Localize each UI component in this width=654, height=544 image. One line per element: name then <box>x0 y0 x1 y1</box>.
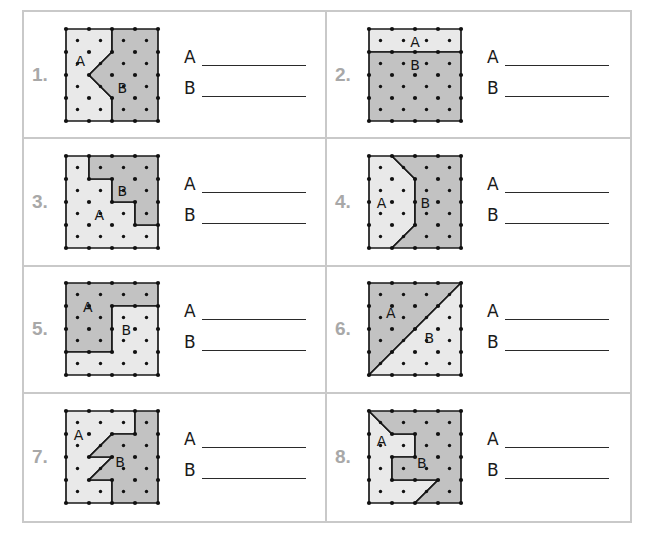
region-label-b: B <box>424 330 434 346</box>
figure-container: AB <box>363 150 467 254</box>
figure-container: AB <box>363 23 467 127</box>
answer-label-a: A <box>487 303 499 320</box>
figure-container: AB <box>60 150 164 254</box>
answer-blank-b[interactable] <box>202 337 306 351</box>
answer-row-b: B <box>487 207 630 224</box>
answer-label-a: A <box>184 49 196 66</box>
answer-row-a: A <box>184 176 325 193</box>
figure-grid: AB <box>363 405 467 509</box>
figure-grid: AB <box>60 405 164 509</box>
answer-label-a: A <box>487 431 499 448</box>
answer-row-a: A <box>184 303 325 320</box>
answer-blank-b[interactable] <box>505 83 609 97</box>
answer-row-a: A <box>487 49 630 66</box>
answer-row-b: B <box>487 80 630 97</box>
problem-6: 6.ABAB <box>327 267 630 394</box>
answer-blank-a[interactable] <box>202 434 306 448</box>
answer-blank-a[interactable] <box>505 52 609 66</box>
figure-grid: AB <box>60 150 164 254</box>
region-label-b: B <box>410 57 420 73</box>
problem-number: 1. <box>32 64 60 86</box>
problem-7: 7.ABAB <box>24 394 327 521</box>
region-label-b: B <box>118 80 128 96</box>
answer-label-a: A <box>184 176 196 193</box>
answer-label-b: B <box>487 207 499 224</box>
problem-8: 8.ABAB <box>327 394 630 521</box>
region-label-b: B <box>421 195 431 211</box>
answer-blank-a[interactable] <box>202 179 306 193</box>
answer-lines: AB <box>170 49 325 101</box>
region-label-b: B <box>118 183 128 199</box>
answer-blank-a[interactable] <box>202 52 306 66</box>
answer-row-b: B <box>184 462 325 479</box>
figure-grid: AB <box>60 23 164 127</box>
answer-label-b: B <box>487 334 499 351</box>
figure-container: AB <box>363 277 467 381</box>
answer-label-b: B <box>184 80 196 97</box>
answer-label-b: B <box>487 462 499 479</box>
problem-number: 6. <box>335 318 363 340</box>
problem-4: 4.ABAB <box>327 139 630 266</box>
figure-container: AB <box>363 405 467 509</box>
answer-label-b: B <box>184 462 196 479</box>
problem-number: 7. <box>32 446 60 468</box>
answer-lines: AB <box>473 49 630 101</box>
problem-1: 1.ABAB <box>24 12 327 139</box>
figure-container: AB <box>60 277 164 381</box>
answer-row-b: B <box>184 207 325 224</box>
problem-number: 5. <box>32 318 60 340</box>
problem-2: 2.ABAB <box>327 12 630 139</box>
region-label-a: A <box>377 433 387 449</box>
answer-row-a: A <box>184 431 325 448</box>
answer-row-a: A <box>487 176 630 193</box>
answer-row-b: B <box>487 334 630 351</box>
problem-5: 5.ABAB <box>24 267 327 394</box>
region-label-a: A <box>95 207 105 223</box>
figure-grid: AB <box>60 277 164 381</box>
answer-blank-b[interactable] <box>505 465 609 479</box>
answer-lines: AB <box>473 303 630 355</box>
answer-label-b: B <box>487 80 499 97</box>
region-label-a: A <box>377 195 387 211</box>
answer-blank-b[interactable] <box>202 210 306 224</box>
region-label-a: A <box>74 428 84 444</box>
region-label-b: B <box>121 322 131 338</box>
figure-grid: AB <box>363 277 467 381</box>
answer-row-a: A <box>487 431 630 448</box>
problem-number: 4. <box>335 191 363 213</box>
answer-row-b: B <box>184 80 325 97</box>
answer-lines: AB <box>170 176 325 228</box>
region-label-b: B <box>417 455 427 471</box>
problem-number: 8. <box>335 446 363 468</box>
answer-blank-b[interactable] <box>505 337 609 351</box>
answer-lines: AB <box>170 303 325 355</box>
worksheet-page: 1.ABAB2.ABAB3.ABAB4.ABAB5.ABAB6.ABAB7.AB… <box>0 0 654 544</box>
region-label-a: A <box>410 34 420 50</box>
answer-label-a: A <box>487 49 499 66</box>
answer-blank-a[interactable] <box>505 306 609 320</box>
answer-label-a: A <box>184 431 196 448</box>
answer-row-b: B <box>184 334 325 351</box>
problem-3: 3.ABAB <box>24 139 327 266</box>
answer-lines: AB <box>170 431 325 483</box>
answer-label-a: A <box>487 176 499 193</box>
answer-label-a: A <box>184 303 196 320</box>
problems-grid: 1.ABAB2.ABAB3.ABAB4.ABAB5.ABAB6.ABAB7.AB… <box>22 10 632 523</box>
answer-blank-b[interactable] <box>505 210 609 224</box>
answer-row-b: B <box>487 462 630 479</box>
figure-grid: AB <box>363 23 467 127</box>
answer-lines: AB <box>473 176 630 228</box>
figure-container: AB <box>60 405 164 509</box>
answer-label-b: B <box>184 207 196 224</box>
answer-row-a: A <box>487 303 630 320</box>
region-label-a: A <box>75 53 85 69</box>
answer-blank-a[interactable] <box>202 306 306 320</box>
problem-number: 3. <box>32 191 60 213</box>
answer-blank-a[interactable] <box>505 179 609 193</box>
region-label-a: A <box>386 305 396 321</box>
answer-blank-b[interactable] <box>202 465 306 479</box>
answer-blank-b[interactable] <box>202 83 306 97</box>
problem-number: 2. <box>335 64 363 86</box>
region-label-b: B <box>115 454 125 470</box>
answer-blank-a[interactable] <box>505 434 609 448</box>
